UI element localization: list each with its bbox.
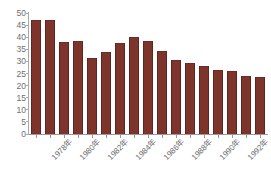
bar[interactable] [255,77,265,134]
bar[interactable] [31,20,41,134]
y-tick-label: 20 [17,81,29,90]
bar-slot [29,13,43,134]
bar[interactable] [171,60,181,134]
x-tick-label: 1986年 [163,138,187,162]
bar-slot [71,13,85,134]
bar-slot [57,13,71,134]
y-tick-label: 10 [17,106,29,115]
y-tick-label: 35 [17,45,29,54]
x-tick-label: 1990年 [219,138,243,162]
bar-slot [113,13,127,134]
bar[interactable] [227,71,237,134]
bar-slot [141,13,155,134]
bar[interactable] [185,63,195,134]
x-tick-label: 1980年 [79,138,103,162]
y-tick-label: 0 [21,130,29,139]
bar[interactable] [115,43,125,134]
bar-series [29,13,267,134]
x-axis-labels: 1978年1980年1982年1984年1986年1988年1990年1992年… [29,138,267,173]
y-tick-label: 45 [17,21,29,30]
bar[interactable] [241,76,251,134]
y-tick-label: 40 [17,33,29,42]
bar[interactable] [129,37,139,134]
x-tick-label: 1984年 [135,138,159,162]
bar-slot [169,13,183,134]
bar-slot [183,13,197,134]
x-tick-label: 1992年 [247,138,271,162]
bar-slot [253,13,267,134]
y-tick-label: 15 [17,93,29,102]
x-tick-label: 1982年 [107,138,131,162]
bar[interactable] [157,51,167,134]
bar[interactable] [213,70,223,134]
bar-slot [127,13,141,134]
y-tick-label: 50 [17,9,29,18]
bar-slot [155,13,169,134]
y-tick-label: 30 [17,57,29,66]
bar-slot [43,13,57,134]
plot-area: 50454035302520151050 [29,13,267,134]
y-tick-label: 5 [21,118,29,127]
bar[interactable] [73,41,83,134]
bar-chart: 50454035302520151050 1978年1980年1982年1984… [0,0,271,173]
bar[interactable] [199,66,209,134]
x-tick-label: 1978年 [51,138,75,162]
bar-slot [85,13,99,134]
bar-slot [225,13,239,134]
bar-slot [239,13,253,134]
y-tick-label: 25 [17,69,29,78]
x-tick-label: 1988年 [191,138,215,162]
bar[interactable] [101,52,111,134]
bar[interactable] [45,20,55,134]
bar-slot [211,13,225,134]
bar[interactable] [59,42,69,134]
bar[interactable] [143,41,153,134]
bar-slot [99,13,113,134]
bar[interactable] [87,58,97,134]
bar-slot [197,13,211,134]
